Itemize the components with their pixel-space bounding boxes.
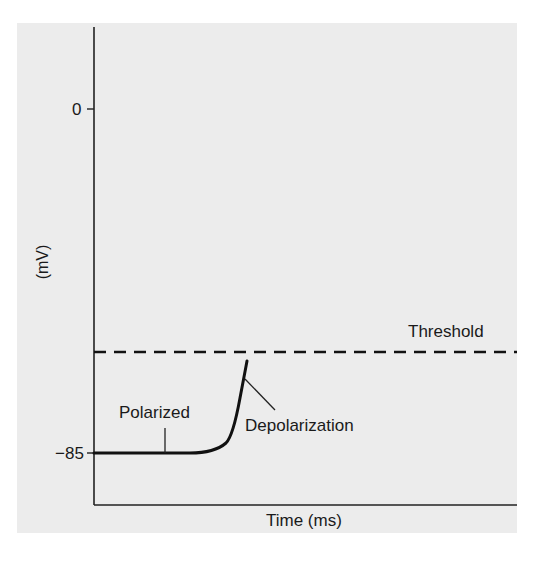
y-axis-label: (mV)	[34, 245, 52, 280]
y-tick-label-resting: −85	[55, 445, 84, 462]
depolarization-leader-line	[245, 379, 275, 410]
depolarization-annotation: Depolarization	[245, 417, 354, 434]
chart-plot-area	[0, 0, 537, 562]
polarized-annotation: Polarized	[119, 404, 190, 421]
threshold-annotation: Threshold	[408, 323, 484, 340]
y-tick-label-zero: 0	[72, 101, 81, 118]
x-axis-label: Time (ms)	[266, 512, 342, 529]
